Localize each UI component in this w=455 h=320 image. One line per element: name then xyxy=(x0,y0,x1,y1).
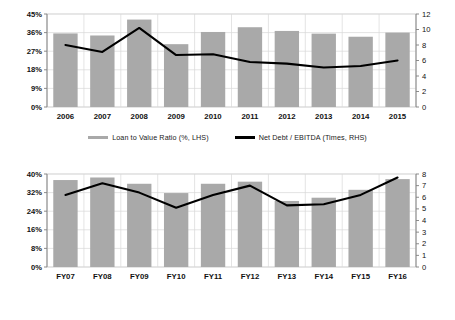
left-axis-tick-label: 36% xyxy=(27,28,42,37)
left-axis-tick-label: 9% xyxy=(31,84,42,93)
x-axis-tick-label: 2012 xyxy=(278,112,296,121)
right-axis-tick-label: 0 xyxy=(422,103,426,112)
bar xyxy=(90,177,114,267)
bar xyxy=(275,31,299,107)
bar xyxy=(348,37,372,107)
left-axis-tick-label: 18% xyxy=(27,65,42,74)
bar xyxy=(201,32,225,107)
right-axis-tick-label: 7 xyxy=(422,181,426,190)
x-axis-tick-label: 2013 xyxy=(315,112,333,121)
x-axis-tick-label: FY07 xyxy=(56,272,75,281)
x-axis-tick-label: FY15 xyxy=(351,272,370,281)
legend-entry-line: Net Debt / EBITDA (Times, RHS) xyxy=(235,134,367,141)
x-axis-tick-label: FY10 xyxy=(167,272,186,281)
left-axis-tick-label: 45% xyxy=(27,10,42,19)
left-axis-tick-label: 24% xyxy=(27,207,42,216)
legend-bar-swatch-icon xyxy=(88,136,108,139)
right-axis-tick-label: 4 xyxy=(422,72,426,81)
chart-top: 0%9%18%27%36%45%024681012200620072008200… xyxy=(0,0,455,160)
x-axis-tick-label: FY12 xyxy=(241,272,260,281)
bar xyxy=(385,179,409,267)
bar xyxy=(238,182,262,267)
x-axis-tick-label: FY14 xyxy=(314,272,333,281)
bar xyxy=(312,34,336,107)
bar xyxy=(312,198,336,267)
chart-top-legend: Loan to Value Ratio (%, LHS) Net Debt / … xyxy=(0,134,455,141)
chart-page: 0%9%18%27%36%45%024681012200620072008200… xyxy=(0,0,455,320)
x-axis-tick-label: 2007 xyxy=(94,112,111,121)
x-axis-tick-label: 2011 xyxy=(241,112,259,121)
left-axis-tick-label: 0% xyxy=(31,263,42,272)
right-axis-tick-label: 3 xyxy=(422,228,426,237)
chart-bottom-plot: 0%8%16%24%32%40%012345678FY07FY08FY09FY1… xyxy=(0,160,455,292)
left-axis-tick-label: 0% xyxy=(31,103,42,112)
legend-line-label: Net Debt / EBITDA (Times, RHS) xyxy=(259,134,367,141)
bar xyxy=(348,190,372,267)
right-axis-tick-label: 1 xyxy=(422,251,426,260)
right-axis-tick-label: 6 xyxy=(422,193,426,202)
right-axis-tick-label: 2 xyxy=(422,87,426,96)
legend-line-swatch-icon xyxy=(235,136,255,139)
right-axis-tick-label: 8 xyxy=(422,170,426,179)
x-axis-tick-label: 2010 xyxy=(204,112,222,121)
x-axis-tick-label: 2008 xyxy=(131,112,149,121)
chart-top-plot: 0%9%18%27%36%45%024681012200620072008200… xyxy=(0,0,455,132)
left-axis-tick-label: 16% xyxy=(27,225,42,234)
left-axis-tick-label: 40% xyxy=(27,170,42,179)
chart-bottom: 0%8%16%24%32%40%012345678FY07FY08FY09FY1… xyxy=(0,160,455,320)
left-axis-tick-label: 27% xyxy=(27,47,42,56)
left-axis-tick-label: 32% xyxy=(27,188,42,197)
x-axis-tick-label: 2006 xyxy=(57,112,75,121)
x-axis-tick-label: 2015 xyxy=(389,112,407,121)
left-axis-tick-label: 8% xyxy=(31,244,42,253)
right-axis-tick-label: 6 xyxy=(422,56,426,65)
right-axis-tick-label: 5 xyxy=(422,204,426,213)
bar xyxy=(201,184,225,267)
x-axis-tick-label: FY11 xyxy=(204,272,223,281)
x-axis-tick-label: FY16 xyxy=(388,272,407,281)
right-axis-tick-label: 10 xyxy=(422,25,430,34)
right-axis-tick-label: 4 xyxy=(422,216,426,225)
right-axis-tick-label: 12 xyxy=(422,10,430,19)
x-axis-tick-label: 2014 xyxy=(352,112,370,121)
bar xyxy=(385,33,409,107)
legend-bar-label: Loan to Value Ratio (%, LHS) xyxy=(112,134,209,141)
right-axis-tick-label: 2 xyxy=(422,239,426,248)
right-axis-tick-label: 8 xyxy=(422,41,426,50)
bar xyxy=(164,44,188,107)
x-axis-tick-label: FY09 xyxy=(130,272,149,281)
bar xyxy=(238,27,262,107)
x-axis-tick-label: FY13 xyxy=(278,272,297,281)
legend-entry-bar: Loan to Value Ratio (%, LHS) xyxy=(88,134,209,141)
x-axis-tick-label: FY08 xyxy=(93,272,112,281)
bar xyxy=(275,201,299,267)
x-axis-tick-label: 2009 xyxy=(167,112,185,121)
right-axis-tick-label: 0 xyxy=(422,263,426,272)
